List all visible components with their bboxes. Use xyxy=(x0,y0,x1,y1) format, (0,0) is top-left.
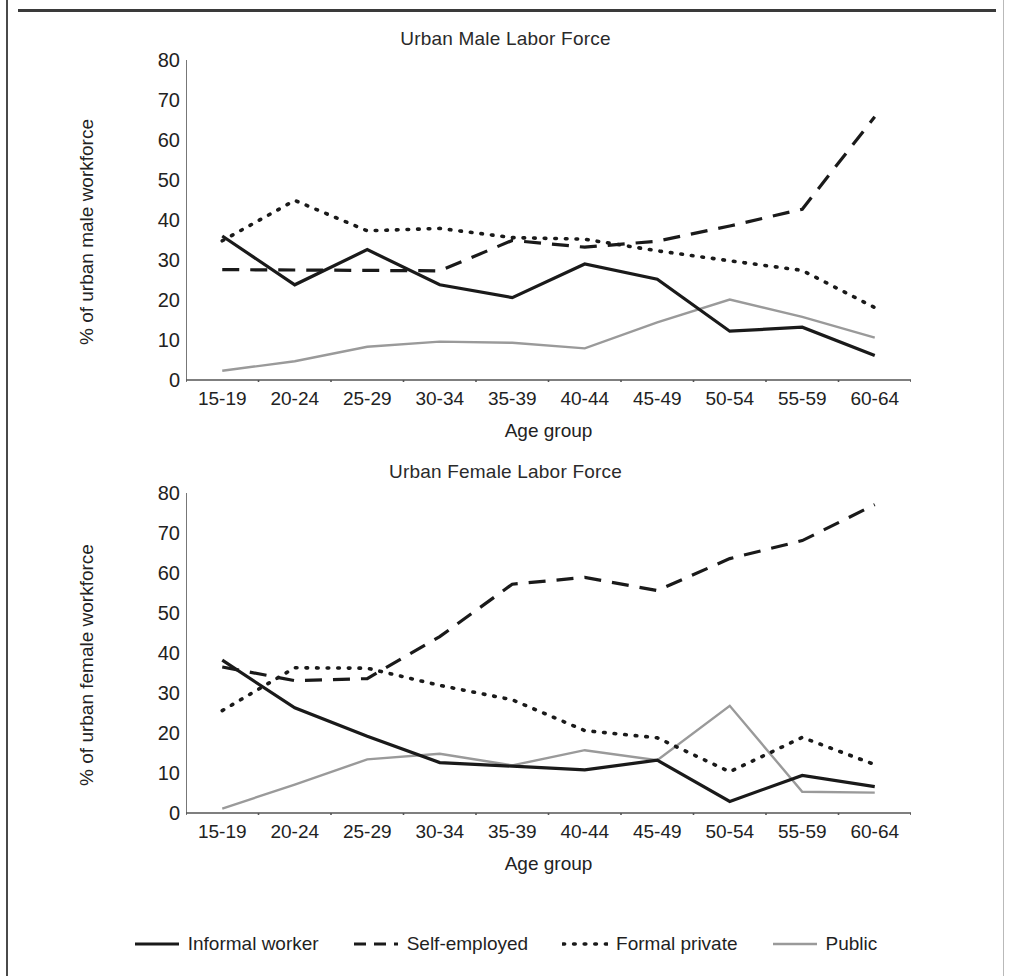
x-tick-label: 20-24 xyxy=(270,388,319,410)
legend-label: Public xyxy=(826,933,878,955)
x-tick-label: 20-24 xyxy=(270,821,319,843)
x-tick-label: 60-64 xyxy=(850,821,899,843)
legend-label: Formal private xyxy=(616,933,737,955)
chart-title-male: Urban Male Labor Force xyxy=(0,28,1011,50)
y-tick-label: 30 xyxy=(158,683,180,703)
legend-item: Public xyxy=(772,933,878,955)
series-line xyxy=(222,117,875,271)
series-line xyxy=(222,300,875,371)
x-tick-label: 50-54 xyxy=(705,388,754,410)
y-axis-title-male: % of urban male workforce xyxy=(76,82,98,382)
y-tick-label: 50 xyxy=(158,603,180,623)
x-axis-title-female: Age group xyxy=(186,853,911,875)
x-tick-label: 45-49 xyxy=(633,821,682,843)
x-tick-label: 40-44 xyxy=(560,821,609,843)
axis-lines xyxy=(186,60,911,382)
x-tick-label: 35-39 xyxy=(488,821,537,843)
y-tick-label: 40 xyxy=(158,210,180,230)
legend-label: Self-employed xyxy=(407,933,528,955)
y-tick-label: 20 xyxy=(158,290,180,310)
x-tick-label: 40-44 xyxy=(560,388,609,410)
legend-line-icon xyxy=(353,937,399,951)
y-tick-label: 70 xyxy=(158,523,180,543)
plot-area-female xyxy=(186,493,911,815)
y-tick-label: 30 xyxy=(158,250,180,270)
y-tick-label: 80 xyxy=(158,50,180,70)
page-top-rule xyxy=(18,9,996,12)
plot-area-male xyxy=(186,60,911,382)
series-line xyxy=(222,236,875,356)
series-line xyxy=(222,706,875,809)
series-line xyxy=(222,505,875,681)
plot-svg-female xyxy=(186,493,911,815)
y-tick-label: 40 xyxy=(158,643,180,663)
chart-urban-male-labor-force: Urban Male Labor Force % of urban male w… xyxy=(0,22,1011,452)
x-tick-label: 15-19 xyxy=(198,821,247,843)
x-axis-ticks-female: 15-1920-2425-2930-3435-3940-4445-4950-54… xyxy=(186,821,911,847)
chart-urban-female-labor-force: Urban Female Labor Force % of urban fema… xyxy=(0,455,1011,885)
x-tick-label: 55-59 xyxy=(778,821,827,843)
x-tick-label: 30-34 xyxy=(415,388,464,410)
legend-line-icon xyxy=(562,937,608,951)
series-line xyxy=(222,668,875,772)
y-tick-label: 60 xyxy=(158,130,180,150)
y-tick-label: 0 xyxy=(169,803,180,823)
legend-line-icon xyxy=(134,937,180,951)
y-tick-label: 80 xyxy=(158,483,180,503)
y-axis-title-female: % of urban female workforce xyxy=(76,515,98,815)
legend-item: Informal worker xyxy=(134,933,319,955)
y-tick-label: 50 xyxy=(158,170,180,190)
y-tick-label: 10 xyxy=(158,763,180,783)
y-tick-label: 20 xyxy=(158,723,180,743)
figure-page: Urban Male Labor Force % of urban male w… xyxy=(0,0,1011,976)
plot-svg-male xyxy=(186,60,911,382)
legend-label: Informal worker xyxy=(188,933,319,955)
x-axis-title-male: Age group xyxy=(186,420,911,442)
legend-item: Formal private xyxy=(562,933,737,955)
x-tick-label: 25-29 xyxy=(343,388,392,410)
y-axis-ticks-male: 01020304050607080 xyxy=(120,60,180,382)
x-tick-label: 25-29 xyxy=(343,821,392,843)
y-axis-ticks-female: 01020304050607080 xyxy=(120,493,180,815)
x-tick-label: 35-39 xyxy=(488,388,537,410)
chart-legend: Informal workerSelf-employedFormal priva… xyxy=(0,933,1011,955)
x-tick-label: 50-54 xyxy=(705,821,754,843)
x-tick-label: 55-59 xyxy=(778,388,827,410)
y-tick-label: 60 xyxy=(158,563,180,583)
x-tick-label: 30-34 xyxy=(415,821,464,843)
legend-line-icon xyxy=(772,937,818,951)
x-tick-label: 60-64 xyxy=(850,388,899,410)
x-tick-label: 45-49 xyxy=(633,388,682,410)
y-tick-label: 70 xyxy=(158,90,180,110)
x-axis-ticks-male: 15-1920-2425-2930-3435-3940-4445-4950-54… xyxy=(186,388,911,414)
chart-title-female: Urban Female Labor Force xyxy=(0,461,1011,483)
y-tick-label: 0 xyxy=(169,370,180,390)
legend-item: Self-employed xyxy=(353,933,528,955)
y-tick-label: 10 xyxy=(158,330,180,350)
x-tick-label: 15-19 xyxy=(198,388,247,410)
